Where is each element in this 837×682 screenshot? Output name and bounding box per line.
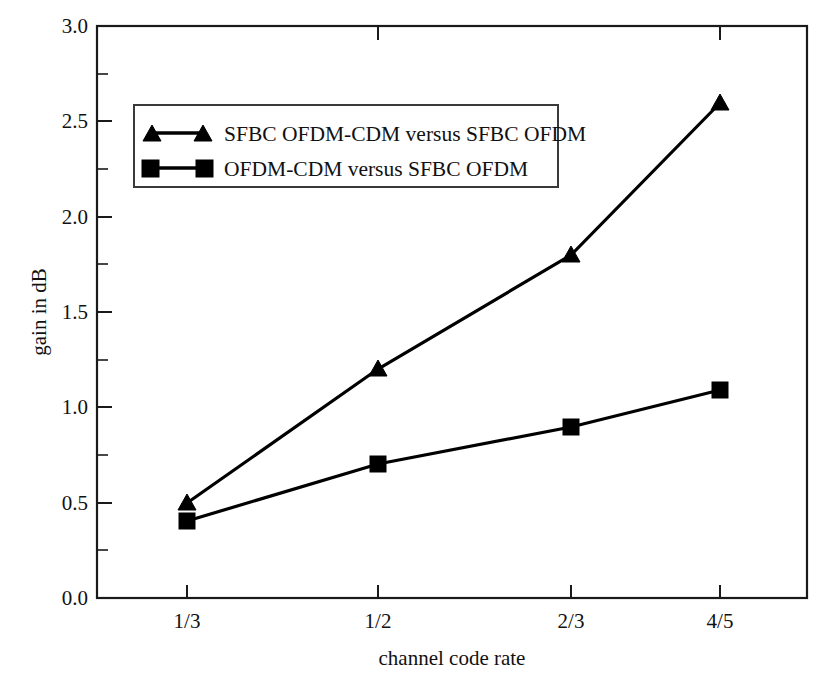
data-point-marker bbox=[178, 494, 196, 510]
legend-entry-2: OFDM-CDM versus SFBC OFDM bbox=[142, 157, 528, 181]
series-ofdm-cdm bbox=[179, 382, 728, 529]
x-tick-label: 2/3 bbox=[558, 609, 585, 633]
data-point-marker bbox=[563, 419, 579, 435]
data-point-marker bbox=[712, 382, 728, 398]
x-axis-tick-labels: 1/3 1/2 2/3 4/5 bbox=[174, 609, 734, 633]
y-axis-major-ticks bbox=[97, 26, 112, 598]
x-axis-title: channel code rate bbox=[379, 646, 526, 670]
square-marker-icon bbox=[142, 160, 159, 177]
series-2-line bbox=[187, 390, 720, 521]
y-tick-label: 2.5 bbox=[62, 109, 88, 133]
data-point-marker bbox=[369, 360, 387, 376]
chart-figure: 3.0 2.5 2.0 1.5 1.0 0.5 0.0 1/3 1/2 2/3 … bbox=[0, 0, 837, 682]
y-tick-label: 0.0 bbox=[62, 586, 88, 610]
data-point-marker bbox=[370, 456, 386, 472]
x-tick-label: 1/2 bbox=[365, 609, 392, 633]
line-chart: 3.0 2.5 2.0 1.5 1.0 0.5 0.0 1/3 1/2 2/3 … bbox=[0, 0, 837, 682]
legend-label: OFDM-CDM versus SFBC OFDM bbox=[224, 157, 528, 181]
data-point-marker bbox=[179, 513, 195, 529]
data-point-marker bbox=[711, 94, 729, 110]
y-tick-label: 1.5 bbox=[62, 300, 88, 324]
y-tick-label: 2.0 bbox=[62, 205, 88, 229]
legend-label: SFBC OFDM-CDM versus SFBC OFDM bbox=[224, 122, 586, 146]
x-tick-label: 4/5 bbox=[707, 609, 734, 633]
square-marker-icon bbox=[196, 160, 213, 177]
x-tick-label: 1/3 bbox=[174, 609, 201, 633]
y-tick-label: 0.5 bbox=[62, 491, 88, 515]
y-tick-label: 1.0 bbox=[62, 395, 88, 419]
chart-legend: SFBC OFDM-CDM versus SFBC OFDM OFDM-CDM … bbox=[134, 105, 586, 187]
y-tick-label: 3.0 bbox=[62, 14, 88, 38]
y-axis-title: gain in dB bbox=[27, 268, 51, 356]
y-axis-tick-labels: 3.0 2.5 2.0 1.5 1.0 0.5 0.0 bbox=[62, 14, 88, 610]
